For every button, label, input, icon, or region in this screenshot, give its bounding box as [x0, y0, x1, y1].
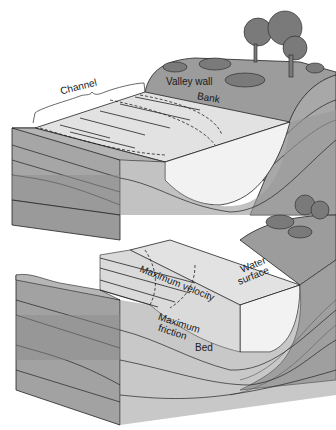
label-valley-wall: Valley wall: [166, 77, 213, 87]
label-bed: Bed: [195, 343, 213, 353]
diagram-artwork: [0, 0, 336, 430]
upper-block: [12, 11, 336, 215]
lower-block: [12, 195, 336, 425]
stream-channel-diagram: Channel Valley wall Bank Maximum velocit…: [0, 0, 336, 430]
